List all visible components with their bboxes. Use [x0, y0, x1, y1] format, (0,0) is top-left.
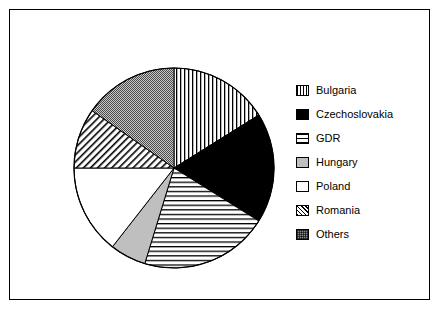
- legend-label-romania: Romania: [316, 205, 360, 216]
- pie-svg: [68, 62, 280, 274]
- legend-label-gdr: GDR: [316, 133, 340, 144]
- legend-item-gdr: GDR: [296, 126, 426, 150]
- chart-legend: Bulgaria Czechoslovakia GDR Hungary Pola…: [296, 78, 426, 246]
- legend-label-czechoslovakia: Czechoslovakia: [316, 109, 393, 120]
- legend-item-others: Others: [296, 222, 426, 246]
- legend-item-bulgaria: Bulgaria: [296, 78, 426, 102]
- legend-item-romania: Romania: [296, 198, 426, 222]
- legend-label-bulgaria: Bulgaria: [316, 85, 356, 96]
- legend-swatch-others-icon: [296, 229, 309, 240]
- legend-label-others: Others: [316, 229, 349, 240]
- legend-item-hungary: Hungary: [296, 150, 426, 174]
- figure-frame: Bulgaria Czechoslovakia GDR Hungary Pola…: [9, 9, 430, 300]
- legend-label-hungary: Hungary: [316, 157, 358, 168]
- legend-item-poland: Poland: [296, 174, 426, 198]
- legend-item-czechoslovakia: Czechoslovakia: [296, 102, 426, 126]
- pie-chart-figure: Bulgaria Czechoslovakia GDR Hungary Pola…: [0, 0, 441, 311]
- legend-label-poland: Poland: [316, 181, 350, 192]
- legend-swatch-gdr-icon: [296, 133, 309, 144]
- legend-swatch-hungary-icon: [296, 157, 309, 168]
- legend-swatch-czechoslovakia-icon: [296, 109, 309, 120]
- pie-chart-area: [68, 62, 280, 274]
- legend-swatch-poland-icon: [296, 181, 309, 192]
- legend-swatch-romania-icon: [296, 205, 309, 216]
- legend-swatch-bulgaria-icon: [296, 85, 309, 96]
